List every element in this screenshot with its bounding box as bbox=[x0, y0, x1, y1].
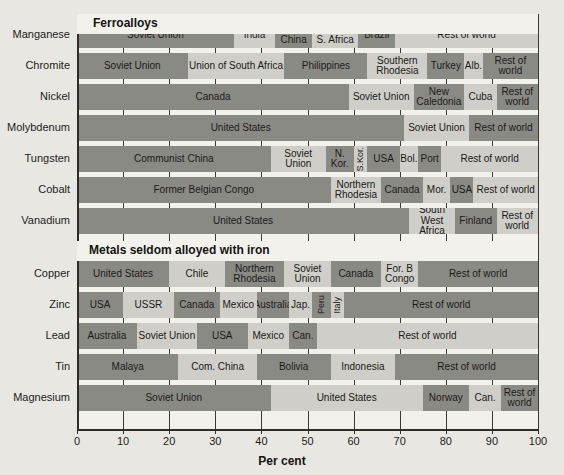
bar-segment: Canada bbox=[77, 84, 349, 110]
bar-row: Soviet UnionUnited StatesNorwayCan.Rest … bbox=[77, 385, 538, 411]
bar-segment-label: Australia bbox=[87, 331, 128, 342]
bar-segment-label: Bolivia bbox=[278, 362, 309, 373]
tick-mark-20 bbox=[169, 429, 170, 434]
bar-segment: Rest of world bbox=[501, 385, 538, 411]
bar-segment-label: Northern Rhodesia bbox=[225, 264, 285, 285]
category-label-lead: Lead bbox=[0, 329, 70, 341]
bar-segment: Com. China bbox=[178, 354, 256, 380]
bar-segment-label: Rest of world bbox=[497, 87, 538, 108]
bar-segment: Malaya bbox=[77, 354, 178, 380]
bar-segment-label: Rest of world bbox=[448, 269, 508, 280]
bar-segment-label: Soviet Union bbox=[407, 123, 466, 134]
tick-label-20: 20 bbox=[163, 435, 175, 447]
bar-segment-label: Alb. bbox=[464, 61, 482, 72]
bar-segment: Can. bbox=[289, 323, 317, 349]
tick-label-80: 80 bbox=[440, 435, 452, 447]
bar-row: MalayaCom. ChinaBoliviaIndonesiaRest of … bbox=[77, 354, 538, 380]
bar-segment: Rest of world bbox=[418, 261, 538, 287]
category-label-zinc: Zinc bbox=[0, 298, 70, 310]
bar-row: CanadaSoviet UnionNew CaledoniaCubaRest … bbox=[77, 84, 538, 110]
bar-segment: Soviet Union bbox=[284, 261, 330, 287]
bar-segment-label: Former Belgian Congo bbox=[152, 185, 255, 196]
bar-segment: New Caledonia bbox=[414, 84, 465, 110]
category-label-cobalt: Cobalt bbox=[0, 183, 70, 195]
bar-segment: United States bbox=[77, 115, 404, 141]
bar-row: United StatesChileNorthern RhodesiaSovie… bbox=[77, 261, 538, 287]
bar-segment-label: Turkey bbox=[430, 61, 462, 72]
bar-segment-label: Rest of world bbox=[501, 388, 538, 409]
bar-row: Soviet UnionUnion of South AfricaPhilipp… bbox=[77, 53, 538, 79]
bar-segment-label: Canada bbox=[178, 300, 215, 311]
bar-segment-label: Italy bbox=[332, 297, 343, 314]
bar-segment: Southern Rhodesia bbox=[367, 53, 427, 79]
bar-segment: Mor. bbox=[423, 177, 451, 203]
bar-segment: N. Kor. bbox=[326, 146, 354, 172]
bar-segment-label: New Caledonia bbox=[414, 87, 465, 108]
bar-segment: Rest of world bbox=[395, 354, 538, 380]
bar-segment: Peru bbox=[312, 292, 330, 318]
category-label-molybdenum: Molybdenum bbox=[0, 121, 70, 133]
tick-label-30: 30 bbox=[209, 435, 221, 447]
section-heading: Metals seldom alloyed with iron bbox=[85, 243, 274, 257]
bar-segment: Soviet Union bbox=[404, 115, 469, 141]
bar-segment-label: S.Kor. bbox=[355, 147, 366, 172]
bar-segment-label: USA bbox=[211, 331, 234, 342]
bar-segment: Finland bbox=[455, 208, 496, 234]
bar-segment-label: Northern Rhodesia bbox=[331, 180, 382, 201]
bar-segment-label: Soviet Union bbox=[284, 264, 330, 285]
tick-mark-50 bbox=[308, 429, 309, 434]
tick-mark-40 bbox=[261, 429, 262, 434]
bar-segment-label: United States bbox=[92, 269, 154, 280]
bar-segment: Norway bbox=[423, 385, 469, 411]
bar-segment: Alb. bbox=[464, 53, 482, 79]
bar-segment: Rest of world bbox=[497, 84, 538, 110]
bar-segment: Soviet Union bbox=[271, 146, 326, 172]
bar-segment-label: South West Africa bbox=[409, 208, 455, 234]
tick-label-70: 70 bbox=[394, 435, 406, 447]
bar-segment: USA bbox=[367, 146, 399, 172]
tick-mark-60 bbox=[354, 429, 355, 434]
bar-segment-label: USSR bbox=[134, 300, 164, 311]
bar-segment-label: United States bbox=[210, 123, 272, 134]
tick-label-40: 40 bbox=[255, 435, 267, 447]
bar-segment: S.Kor. bbox=[354, 146, 368, 172]
bar-segment-label: United States bbox=[212, 216, 274, 227]
tick-label-0: 0 bbox=[74, 435, 80, 447]
bar-segment: Port bbox=[418, 146, 441, 172]
bar-row: AustraliaSoviet UnionUSAMexicoCan.Rest o… bbox=[77, 323, 538, 349]
category-label-copper: Copper bbox=[0, 267, 70, 279]
category-label-tungsten: Tungsten bbox=[0, 152, 70, 164]
bar-segment-label: Malaya bbox=[111, 362, 145, 373]
bar-segment-label: Jap. bbox=[290, 300, 311, 311]
bar-segment-label: Mexico bbox=[251, 331, 285, 342]
bar-row: United StatesSoviet UnionRest of world bbox=[77, 115, 538, 141]
bar-row: Communist ChinaSoviet UnionN. Kor.S.Kor.… bbox=[77, 146, 538, 172]
bar-segment-label: Soviet Union bbox=[138, 331, 197, 342]
bar-segment-label: Can. bbox=[473, 393, 496, 404]
bar-segment-label: Bol. bbox=[400, 154, 418, 165]
bar-segment-label: Union of South Africa bbox=[188, 61, 284, 72]
tick-mark-80 bbox=[446, 429, 447, 434]
bar-segment: Chile bbox=[169, 261, 224, 287]
bar-segment-label: Mexico bbox=[222, 300, 256, 311]
category-label-chromite: Chromite bbox=[0, 59, 70, 71]
bar-segment-label: USA bbox=[372, 154, 395, 165]
bar-segment: Turkey bbox=[427, 53, 464, 79]
section-heading: Ferroalloys bbox=[89, 16, 162, 30]
tick-mark-70 bbox=[400, 429, 401, 434]
tick-mark-0 bbox=[77, 429, 78, 434]
bar-segment-label: United States bbox=[316, 393, 378, 404]
bar-segment: Mexico bbox=[248, 323, 289, 349]
bar-segment: Communist China bbox=[77, 146, 271, 172]
gridline-100 bbox=[538, 14, 539, 429]
bar-segment: United States bbox=[77, 261, 169, 287]
bar-segment: Rest of world bbox=[469, 115, 538, 141]
bar-segment: Indonesia bbox=[331, 354, 396, 380]
bar-segment-label: Soviet Union bbox=[271, 149, 326, 170]
bar-segment-label: Rest of world bbox=[411, 300, 471, 311]
bar-segment-label: USA bbox=[89, 300, 112, 311]
bar-segment-label: Norway bbox=[428, 393, 464, 404]
bar-segment: Jap. bbox=[289, 292, 312, 318]
bar-segment-label: Rest of world bbox=[436, 362, 496, 373]
bar-segment: Rest of world bbox=[441, 146, 538, 172]
